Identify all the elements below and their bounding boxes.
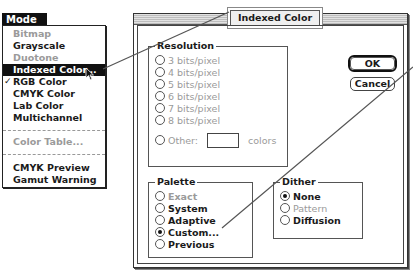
radio-3-bits[interactable]: 3 bits/pixel: [155, 55, 220, 67]
radio-button-selected-icon: [155, 227, 165, 237]
radio-button-icon: [280, 203, 290, 213]
menu-item-cmyk-preview[interactable]: CMYK Preview: [3, 162, 105, 174]
radio-8-bits[interactable]: 8 bits/pixel: [155, 115, 220, 127]
radio-system[interactable]: System: [155, 203, 208, 215]
resolution-group: Resolution 3 bits/pixel 4 bits/pixel 5 b…: [148, 46, 288, 167]
radio-5-bits[interactable]: 5 bits/pixel: [155, 79, 220, 91]
palette-label: Palette: [155, 176, 197, 188]
radio-button-icon: [155, 103, 165, 113]
menu-item-duotone: Duotone: [3, 52, 105, 64]
menu-item-multichannel[interactable]: Multichannel: [3, 112, 105, 124]
radio-button-icon: [280, 215, 290, 225]
menu-item-color-table: Color Table...: [3, 136, 105, 148]
radio-button-icon: [155, 91, 165, 101]
menu-separator: [3, 154, 105, 155]
menu-separator: [3, 130, 105, 131]
other-colors-input[interactable]: [207, 133, 239, 148]
radio-button-icon: [155, 55, 165, 65]
radio-button-icon: [155, 67, 165, 77]
radio-4-bits[interactable]: 4 bits/pixel: [155, 67, 220, 79]
dialog-title: Indexed Color: [230, 10, 320, 26]
dither-label: Dither: [280, 176, 318, 188]
radio-custom[interactable]: Custom...: [155, 227, 219, 239]
radio-button-icon: [155, 135, 165, 145]
dither-group: Dither None Pattern Diffusion: [273, 182, 363, 239]
menu-item-lab-color[interactable]: Lab Color: [3, 100, 105, 112]
mode-menu: Bitmap Grayscale Duotone Indexed Color..…: [2, 25, 106, 188]
radio-button-icon: [155, 115, 165, 125]
menu-item-gamut-warning[interactable]: Gamut Warning: [3, 174, 105, 186]
radio-none[interactable]: None: [280, 191, 321, 203]
radio-other[interactable]: Other: colors: [155, 133, 276, 145]
mouse-cursor-icon: [85, 67, 95, 81]
radio-button-icon: [155, 79, 165, 89]
menu-item-cmyk-color[interactable]: CMYK Color: [3, 88, 105, 100]
radio-diffusion[interactable]: Diffusion: [280, 215, 341, 227]
colors-suffix: colors: [248, 135, 276, 146]
radio-6-bits[interactable]: 6 bits/pixel: [155, 91, 220, 103]
radio-exact[interactable]: Exact: [155, 191, 197, 203]
ok-button[interactable]: OK: [348, 55, 397, 72]
radio-7-bits[interactable]: 7 bits/pixel: [155, 103, 220, 115]
menu-item-grayscale[interactable]: Grayscale: [3, 40, 105, 52]
palette-group: Palette Exact System Adaptive Custom... …: [148, 182, 253, 258]
radio-previous[interactable]: Previous: [155, 239, 214, 251]
indexed-color-dialog: Indexed Color Resolution 3 bits/pixel 4 …: [133, 13, 408, 268]
dialog-title-bar[interactable]: Indexed Color: [134, 14, 407, 25]
radio-button-icon: [155, 203, 165, 213]
dialog-body: Resolution 3 bits/pixel 4 bits/pixel 5 b…: [137, 25, 404, 264]
menu-item-bitmap: Bitmap: [3, 28, 105, 40]
radio-button-icon: [155, 239, 165, 249]
radio-button-icon: [155, 191, 165, 201]
resolution-label: Resolution: [155, 40, 216, 52]
radio-button-selected-icon: [280, 191, 290, 201]
radio-pattern[interactable]: Pattern: [280, 203, 327, 215]
cancel-button[interactable]: Cancel: [350, 77, 395, 91]
radio-button-icon: [155, 215, 165, 225]
radio-adaptive[interactable]: Adaptive: [155, 215, 216, 227]
